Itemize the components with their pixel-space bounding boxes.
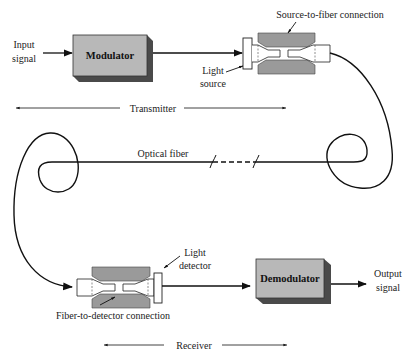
svg-text:Transmitter: Transmitter [130, 103, 177, 114]
fiber-to-detector-connector [77, 267, 162, 308]
svg-text:signal: signal [12, 53, 36, 64]
light-detector-pointer [164, 256, 180, 268]
svg-text:detector: detector [179, 260, 212, 271]
input-signal-label: Input signal [12, 39, 36, 64]
source-to-fiber-label: Source-to-fiber connection [276, 9, 383, 20]
light-detector-label: Light detector [179, 247, 212, 271]
output-signal-label: Output signal [374, 268, 402, 293]
receiver-span: Receiver [104, 340, 287, 351]
svg-text:Light: Light [184, 247, 206, 258]
modulator-block: Modulator [73, 35, 153, 82]
svg-text:Receiver: Receiver [176, 340, 212, 351]
transmitter-span: Transmitter [16, 103, 286, 114]
optical-fiber-label: Optical fiber [138, 148, 189, 159]
svg-text:Modulator: Modulator [86, 50, 135, 61]
source-to-fiber-connector [243, 33, 330, 74]
source-to-fiber-pointer [288, 22, 296, 33]
svg-text:source: source [200, 78, 227, 89]
fiber-optic-diagram: Input signal Modulator Source-to-fiber c… [0, 0, 412, 362]
light-source-pointer [226, 66, 243, 72]
demodulator-block: Demodulator [256, 259, 331, 304]
svg-text:Input: Input [13, 39, 34, 50]
light-source-label: Light source [200, 65, 227, 89]
svg-text:signal: signal [376, 282, 400, 293]
svg-text:Light: Light [202, 65, 224, 76]
svg-text:Demodulator: Demodulator [260, 273, 320, 284]
fiber-to-detector-label: Fiber-to-detector connection [56, 310, 170, 321]
svg-text:Output: Output [374, 268, 402, 279]
